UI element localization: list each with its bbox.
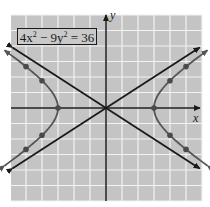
equation-label: 4x2 − 9y2 = 36	[17, 28, 97, 45]
data-point	[183, 64, 189, 70]
y-axis-label: y	[110, 9, 115, 21]
data-point	[167, 132, 173, 138]
data-point	[23, 147, 29, 153]
equation-rhs: = 36	[68, 30, 95, 45]
data-point	[151, 105, 157, 111]
data-point	[39, 132, 45, 138]
data-point	[39, 78, 45, 84]
data-point	[167, 78, 173, 84]
x-axis-label: x	[193, 112, 198, 124]
equation-term-2: − 9y	[37, 30, 64, 45]
data-point	[183, 147, 189, 153]
equation-term-1: 4x	[20, 30, 33, 45]
data-point	[55, 105, 61, 111]
data-point	[23, 64, 29, 70]
